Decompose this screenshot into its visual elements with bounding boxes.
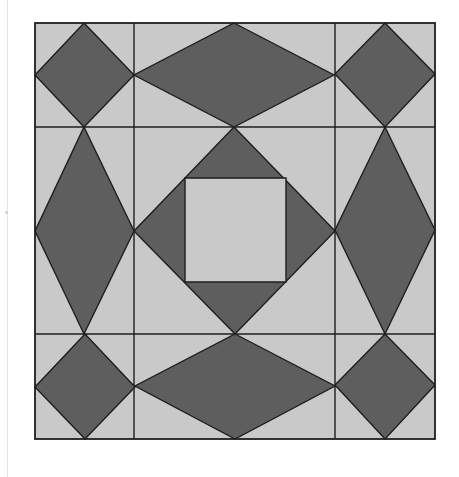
center-square [185,178,286,282]
quilt-block-diagram [0,0,459,477]
page [0,0,459,477]
light-center-square [185,178,286,282]
